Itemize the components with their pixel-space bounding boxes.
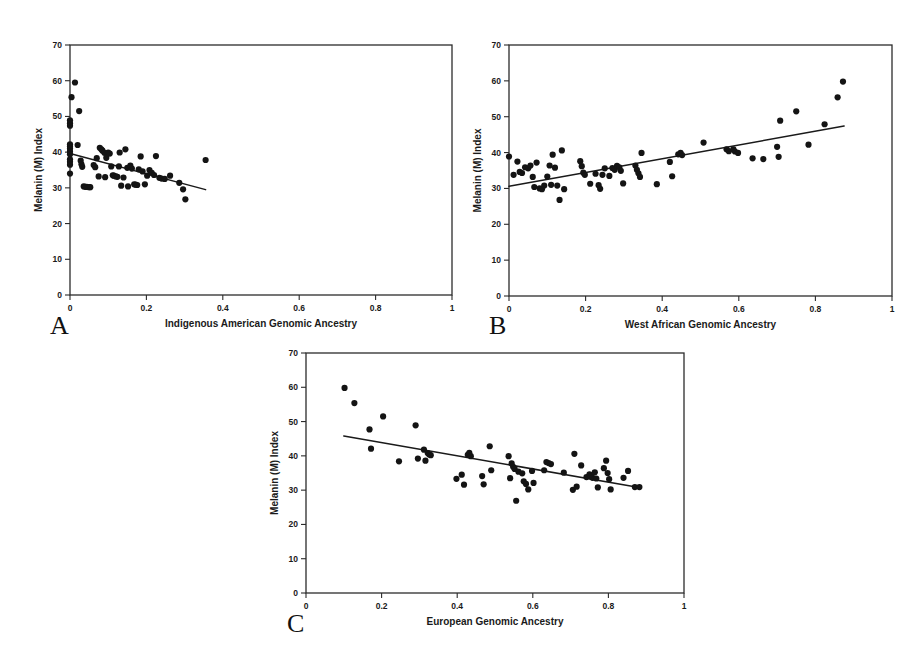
data-point xyxy=(468,453,474,459)
data-point xyxy=(459,472,465,478)
y-tick-label: 20 xyxy=(289,519,299,529)
x-tick-label: 0 xyxy=(304,601,309,611)
y-tick-label: 60 xyxy=(289,382,299,392)
data-point xyxy=(487,443,493,449)
data-point xyxy=(453,476,459,482)
data-point xyxy=(608,486,614,492)
data-point xyxy=(571,451,577,457)
figure-melanin-ancestry: 01020304050607000.20.40.60.81Indigenous … xyxy=(0,0,908,668)
data-point xyxy=(595,484,601,490)
x-tick-label: 0.8 xyxy=(602,601,614,611)
data-point xyxy=(481,481,487,487)
data-point xyxy=(396,458,402,464)
data-point xyxy=(593,475,599,481)
data-point xyxy=(523,481,529,487)
data-point xyxy=(606,476,612,482)
y-axis-title: Melanin (M) Index xyxy=(269,431,280,515)
data-point xyxy=(341,385,347,391)
panel-c-european-plot: 01020304050607000.20.40.60.81European Ge… xyxy=(0,0,908,668)
data-point xyxy=(366,426,372,432)
data-point xyxy=(380,413,386,419)
data-point xyxy=(422,458,428,464)
data-point xyxy=(605,470,611,476)
y-tick-label: 10 xyxy=(289,554,299,564)
x-axis-title: European Genomic Ancestry xyxy=(427,616,564,627)
data-point xyxy=(519,470,525,476)
data-point xyxy=(541,467,547,473)
data-point xyxy=(428,452,434,458)
data-point xyxy=(525,486,531,492)
y-tick-label: 50 xyxy=(289,417,299,427)
data-point xyxy=(548,461,554,467)
y-tick-label: 40 xyxy=(289,451,299,461)
x-tick-label: 1 xyxy=(682,601,687,611)
data-point xyxy=(461,482,467,488)
y-tick-label: 0 xyxy=(293,588,298,598)
data-point xyxy=(574,484,580,490)
data-point xyxy=(603,458,609,464)
data-point xyxy=(561,470,567,476)
x-tick-label: 0.4 xyxy=(451,601,463,611)
data-point xyxy=(620,475,626,481)
data-point xyxy=(530,480,536,486)
data-point xyxy=(488,467,494,473)
data-point xyxy=(351,400,357,406)
x-tick-label: 0.6 xyxy=(527,601,539,611)
data-point xyxy=(592,469,598,475)
data-point xyxy=(578,462,584,468)
data-point xyxy=(529,468,535,474)
data-point xyxy=(415,456,421,462)
data-point xyxy=(507,475,513,481)
y-tick-label: 30 xyxy=(289,485,299,495)
x-tick-label: 0.2 xyxy=(376,601,388,611)
data-point xyxy=(368,446,374,452)
panel-letter-c: C xyxy=(287,609,304,638)
data-point xyxy=(513,498,519,504)
data-point xyxy=(625,468,631,474)
data-point xyxy=(636,484,642,490)
data-point xyxy=(413,422,419,428)
data-point xyxy=(479,473,485,479)
data-point xyxy=(506,453,512,459)
y-tick-label: 70 xyxy=(289,348,299,358)
